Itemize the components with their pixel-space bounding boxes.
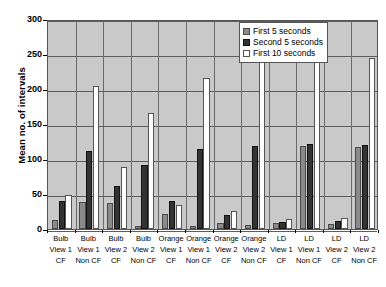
x-axis-label-line: CF (268, 255, 296, 266)
bar (279, 222, 285, 229)
bar (59, 201, 65, 229)
bar (335, 221, 341, 229)
bar (176, 205, 182, 229)
x-axis-label-line: View 2 (350, 244, 378, 255)
x-axis-label-line: Orange (213, 233, 241, 244)
x-axis-label-line: View 2 (240, 244, 268, 255)
x-axis-label-line: Non CF (295, 255, 323, 266)
x-axis-label-line: CF (323, 255, 351, 266)
legend-item[interactable]: First 5 seconds (243, 26, 323, 37)
bar (107, 203, 113, 229)
bar (203, 78, 209, 229)
bar (114, 186, 120, 229)
bar (190, 226, 196, 230)
x-axis-label-line: View 1 (47, 244, 75, 255)
legend-item-label: First 5 seconds (253, 27, 311, 36)
x-axis-label-line: Bulb (75, 233, 103, 244)
x-axis-label-line: View 1 (295, 244, 323, 255)
x-axis-label-line: View 1 (75, 244, 103, 255)
x-axis-label: LDView 1CF (268, 233, 296, 266)
bar (362, 145, 368, 229)
y-tick-label-250: 250 (0, 50, 42, 59)
y-axis-title: Mean no. of intervals (16, 46, 27, 186)
x-axis-label-line: CF (102, 255, 130, 266)
x-axis-label-line: Non CF (75, 255, 103, 266)
bar (141, 165, 147, 229)
x-axis-label: BulbView 2CF (102, 233, 130, 266)
x-axis-label-line: View 1 (185, 244, 213, 255)
x-axis-label-line: CF (47, 255, 75, 266)
x-axis-label-line: View 2 (102, 244, 130, 255)
bar (355, 147, 361, 229)
bar (307, 144, 313, 229)
x-axis-labels: BulbView 1CFBulbView 1Non CFBulbView 2CF… (47, 233, 378, 285)
y-tick-label-50: 50 (0, 190, 42, 199)
x-axis-label: BulbView 1CF (47, 233, 75, 266)
bar (245, 225, 251, 229)
legend-item[interactable]: First 10 seconds (243, 48, 323, 59)
bar (65, 195, 71, 229)
y-tick-label-0: 0 (0, 225, 42, 234)
x-axis-label-line: LD (295, 233, 323, 244)
legend-item-label: First 10 seconds (253, 49, 315, 58)
x-axis-label-line: View 2 (213, 244, 241, 255)
bar (259, 62, 265, 229)
bar (328, 224, 334, 229)
x-axis-label-line: View 1 (157, 244, 185, 255)
x-axis-label: LDView 2Non CF (350, 233, 378, 266)
x-axis-label-line: LD (350, 233, 378, 244)
bar (300, 146, 306, 229)
bar (231, 211, 237, 229)
bar (148, 113, 154, 229)
bar (273, 223, 279, 229)
bar (93, 86, 99, 230)
legend-item[interactable]: Second 5 seconds (243, 37, 323, 48)
bar (79, 202, 85, 229)
bar (169, 201, 175, 229)
x-axis-label-line: Orange (240, 233, 268, 244)
x-axis-label: BulbView 2Non CF (130, 233, 158, 266)
x-axis-label-line: Bulb (130, 233, 158, 244)
x-tick-mark (378, 230, 379, 233)
x-axis-label-line: LD (268, 233, 296, 244)
legend: First 5 secondsSecond 5 secondsFirst 10 … (239, 22, 328, 63)
x-axis-label-line: LD (323, 233, 351, 244)
bar-chart: Mean no. of intervals 050100150200250300… (0, 0, 386, 287)
bar (341, 218, 347, 229)
bar (217, 223, 223, 229)
y-tick-label-100: 100 (0, 155, 42, 164)
y-tick-label-200: 200 (0, 85, 42, 94)
bar (135, 226, 141, 229)
bar (52, 220, 58, 229)
x-axis-label-line: Non CF (185, 255, 213, 266)
x-axis-label-line: Bulb (47, 233, 75, 244)
x-axis-label-line: Non CF (350, 255, 378, 266)
x-axis-label-line: Orange (157, 233, 185, 244)
bar (252, 146, 258, 229)
y-tick-label-150: 150 (0, 120, 42, 129)
bar (86, 151, 92, 229)
x-axis-label-line: Bulb (102, 233, 130, 244)
y-tick-label-300: 300 (0, 15, 42, 24)
x-axis-label: OrangeView 2CF (213, 233, 241, 266)
x-axis-label: BulbView 1Non CF (75, 233, 103, 266)
legend-swatch-icon (243, 28, 250, 35)
x-axis-label-line: Orange (185, 233, 213, 244)
plot-area (47, 20, 378, 230)
legend-item-label: Second 5 seconds (253, 38, 323, 47)
x-axis-label: LDView 2CF (323, 233, 351, 266)
x-axis-label-line: View 2 (323, 244, 351, 255)
bar (314, 58, 320, 230)
legend-swatch-icon (243, 39, 250, 46)
x-axis-label-line: CF (157, 255, 185, 266)
bar (286, 219, 292, 229)
x-axis-label-line: View 1 (268, 244, 296, 255)
x-axis-label: LDView 1Non CF (295, 233, 323, 266)
x-axis-label: OrangeView 1CF (157, 233, 185, 266)
x-axis-label-line: CF (213, 255, 241, 266)
bar (121, 167, 127, 229)
x-axis-label: OrangeView 2Non CF (240, 233, 268, 266)
x-axis-label-line: Non CF (240, 255, 268, 266)
x-axis-label: OrangeView 1Non CF (185, 233, 213, 266)
legend-swatch-icon (243, 50, 250, 57)
